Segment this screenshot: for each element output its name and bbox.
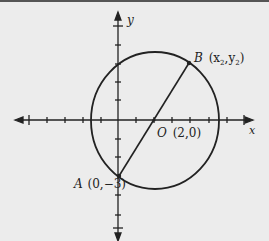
x-axis — [15, 115, 253, 125]
y-axis-down-arrow-icon — [115, 233, 121, 241]
x-axis-label: x — [249, 124, 256, 137]
center-o-label: O (2,0) — [157, 126, 201, 140]
coordinate-diagram: y x B (x2,y2) O (2,0) A (0,−3) — [0, 0, 269, 241]
point-a-label: A (0,−3) — [73, 177, 126, 191]
y-axis — [113, 12, 123, 241]
x-axis-left-arrow-icon — [15, 117, 23, 123]
point-b-label: B (x2,y2) — [193, 51, 244, 67]
y-axis-up-arrow-icon — [115, 12, 121, 20]
point-o — [152, 118, 155, 121]
x-axis-right-arrow-icon — [245, 117, 253, 123]
point-b — [187, 61, 191, 65]
y-axis-label: y — [126, 13, 134, 27]
